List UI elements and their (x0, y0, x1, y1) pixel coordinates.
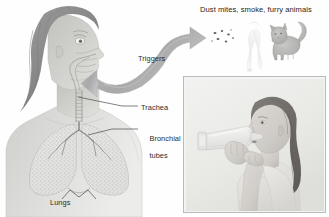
lungs-label: Lungs (50, 199, 70, 208)
inhaler-photo (183, 76, 326, 213)
triggers-label: Triggers (138, 55, 165, 64)
bronchial-tubes-label-line1: Bronchial (149, 134, 180, 143)
triggers-header-label: Dust mites, smoke, furry animals (200, 6, 312, 15)
smoke-icon (247, 22, 262, 72)
trachea-label: Trachea (141, 104, 168, 113)
dust-mites-icon (211, 29, 234, 42)
bronchial-tubes-label-line2: tubes (149, 151, 167, 160)
bronchial-tubes-label: Bronchial tubes (141, 126, 181, 169)
inhaler-photo-image (186, 79, 324, 211)
cat-icon (270, 22, 306, 60)
asthma-diagram-figure: Dust mites, smoke, furry animals Trigger… (0, 0, 329, 217)
